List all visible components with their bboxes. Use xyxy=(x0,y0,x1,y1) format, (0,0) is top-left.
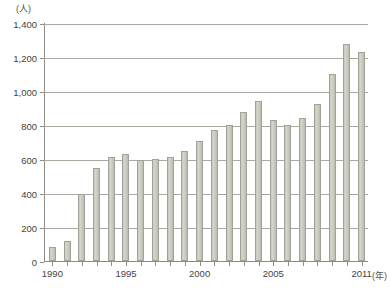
bar-1993 xyxy=(93,168,100,262)
x-tick-2005 xyxy=(273,262,274,266)
bar-1998 xyxy=(167,157,174,261)
bar-1999 xyxy=(181,151,188,262)
y-tick-400 xyxy=(40,194,44,195)
bar-series xyxy=(45,23,368,261)
x-tick-1995 xyxy=(126,262,127,266)
bar-chart: (人) 1,4001,2001,0008006004002000 1990199… xyxy=(0,0,390,291)
x-tick-1991 xyxy=(67,262,68,266)
x-tick-1990 xyxy=(52,262,53,266)
y-tick-label-400: 400 xyxy=(21,189,37,200)
bar-2009 xyxy=(329,74,336,261)
bar-2010 xyxy=(343,44,350,261)
x-tick-2010 xyxy=(347,262,348,266)
bar-slot xyxy=(163,23,178,261)
bar-2007 xyxy=(299,118,306,261)
bar-slot xyxy=(295,23,310,261)
x-tick-2011 xyxy=(362,262,363,266)
bar-1994 xyxy=(108,157,115,261)
y-tick-0 xyxy=(40,262,44,263)
y-tick-1400 xyxy=(40,24,44,25)
x-tick-1998 xyxy=(170,262,171,266)
bar-2002 xyxy=(226,125,233,261)
x-tick-2002 xyxy=(229,262,230,266)
bar-2011 xyxy=(358,52,365,261)
bar-slot xyxy=(251,23,266,261)
x-tick-label-2005: 2005 xyxy=(263,268,284,279)
x-tick-label-1995: 1995 xyxy=(115,268,136,279)
bar-slot xyxy=(340,23,355,261)
bar-1991 xyxy=(64,241,71,261)
bar-2006 xyxy=(284,125,291,261)
x-tick-1994 xyxy=(111,262,112,266)
bar-slot xyxy=(266,23,281,261)
bar-2001 xyxy=(211,130,218,261)
x-tick-2008 xyxy=(317,262,318,266)
x-tick-1996 xyxy=(141,262,142,266)
x-axis-line xyxy=(44,261,368,262)
x-tick-2000 xyxy=(200,262,201,266)
x-tick-2003 xyxy=(244,262,245,266)
bar-slot xyxy=(310,23,325,261)
bar-slot xyxy=(178,23,193,261)
x-tick-1992 xyxy=(82,262,83,266)
y-tick-200 xyxy=(40,228,44,229)
bar-slot xyxy=(74,23,89,261)
x-tick-label-2011: 2011 xyxy=(351,268,371,279)
bar-2004 xyxy=(255,101,262,261)
x-tick-1993 xyxy=(97,262,98,266)
x-axis-unit-label: (年) xyxy=(372,269,387,282)
bar-slot xyxy=(236,23,251,261)
y-tick-1200 xyxy=(40,58,44,59)
x-tick-1997 xyxy=(155,262,156,266)
x-tick-2001 xyxy=(214,262,215,266)
x-tick-label-2000: 2000 xyxy=(189,268,210,279)
x-tick-label-1990: 1990 xyxy=(42,268,63,279)
bar-1995 xyxy=(122,154,129,261)
y-tick-800 xyxy=(40,126,44,127)
bar-slot xyxy=(222,23,237,261)
bar-2008 xyxy=(314,104,321,261)
y-tick-600 xyxy=(40,160,44,161)
y-tick-label-200: 200 xyxy=(21,223,37,234)
bar-slot xyxy=(45,23,60,261)
bar-slot xyxy=(354,23,369,261)
y-tick-label-600: 600 xyxy=(21,155,37,166)
x-tick-2009 xyxy=(332,262,333,266)
bar-slot xyxy=(148,23,163,261)
bar-slot xyxy=(104,23,119,261)
y-tick-1000 xyxy=(40,92,44,93)
bar-1997 xyxy=(152,159,159,261)
plot-area: 1,4001,2001,0008006004002000 19901995200… xyxy=(44,23,368,262)
y-axis-unit-label: (人) xyxy=(16,2,31,15)
x-tick-2007 xyxy=(303,262,304,266)
bar-2000 xyxy=(196,141,203,261)
bar-slot xyxy=(60,23,75,261)
x-tick-2004 xyxy=(259,262,260,266)
bar-slot xyxy=(207,23,222,261)
y-tick-label-800: 800 xyxy=(21,121,37,132)
y-tick-label-0: 0 xyxy=(32,257,37,268)
x-tick-2006 xyxy=(288,262,289,266)
bar-slot xyxy=(192,23,207,261)
bar-slot xyxy=(133,23,148,261)
bar-slot xyxy=(89,23,104,261)
bar-slot xyxy=(325,23,340,261)
bar-2005 xyxy=(270,120,277,261)
bar-1996 xyxy=(137,160,144,261)
bar-2003 xyxy=(240,112,247,261)
y-tick-label-1000: 1,000 xyxy=(13,87,37,98)
bar-1990 xyxy=(49,247,56,261)
y-tick-label-1200: 1,200 xyxy=(13,53,37,64)
bar-1992 xyxy=(78,194,85,261)
y-tick-label-1400: 1,400 xyxy=(13,19,37,30)
bar-slot xyxy=(119,23,134,261)
bar-slot xyxy=(281,23,296,261)
x-tick-1999 xyxy=(185,262,186,266)
